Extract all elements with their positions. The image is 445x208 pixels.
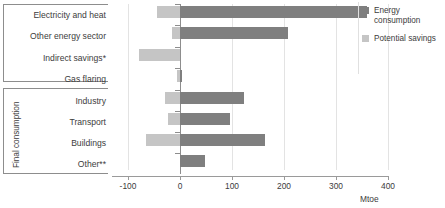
x-axis-unit-label: Mtoe [360, 194, 379, 204]
category-label-transport: Transport [2, 117, 106, 127]
category-label-industry: Industry [2, 96, 106, 106]
energy-savings-bar-chart: Final consumption Electricity and heat O… [0, 0, 445, 208]
x-axis-tick-label: -100 [120, 181, 137, 191]
x-axis-tick [284, 176, 285, 180]
row-tick [175, 68, 180, 69]
gridline [128, 4, 129, 170]
row-tick [175, 4, 180, 5]
plot-area [112, 0, 388, 176]
x-axis-tick [180, 176, 181, 180]
row-tick [175, 47, 180, 48]
x-axis-tick [232, 176, 233, 180]
x-axis-tick [336, 176, 337, 180]
bar-energy-consumption [180, 155, 205, 167]
row-tick [175, 132, 180, 133]
legend-label: Energy consumption [374, 6, 420, 25]
bar-potential-savings [139, 49, 180, 61]
x-axis-tick-label: 300 [329, 181, 343, 191]
bar-energy-consumption [180, 27, 288, 39]
legend-swatch-icon [362, 35, 369, 42]
bar-potential-savings [165, 92, 180, 104]
legend-swatch-icon [362, 7, 369, 14]
category-label-indirect-savings: Indirect savings* [2, 53, 106, 63]
gridline [336, 4, 337, 170]
bar-potential-savings [146, 134, 179, 146]
x-axis-tick [388, 176, 389, 180]
bar-energy-consumption [180, 92, 244, 104]
category-label-electricity-and-heat: Electricity and heat [2, 10, 106, 20]
chart-legend: Energy consumption Potential savings [362, 6, 442, 53]
x-axis-tick-label: 0 [178, 181, 183, 191]
bar-potential-savings [157, 6, 180, 18]
category-label-column: Final consumption Electricity and heat O… [0, 0, 112, 176]
bar-energy-consumption [180, 6, 367, 18]
legend-label: Potential savings [374, 34, 436, 43]
category-label-buildings: Buildings [2, 138, 106, 148]
row-tick [175, 153, 180, 154]
category-label-other: Other** [2, 159, 106, 169]
legend-item-potential-savings: Potential savings [362, 34, 442, 44]
bracket-cap-top [4, 4, 108, 5]
row-tick [175, 90, 180, 91]
x-axis-tick-label: 400 [381, 181, 395, 191]
row-tick [175, 25, 180, 26]
bar-energy-consumption [180, 113, 230, 125]
x-axis-tick [128, 176, 129, 180]
legend-divider [358, 2, 359, 74]
bracket-cap-bottom [4, 173, 108, 174]
category-label-other-energy-sector: Other energy sector [2, 31, 106, 41]
bar-energy-consumption [180, 70, 182, 82]
x-axis-line [112, 176, 388, 177]
row-tick [175, 111, 180, 112]
category-label-gas-flaring: Gas flaring [2, 74, 106, 84]
legend-item-energy-consumption: Energy consumption [362, 6, 442, 25]
bar-potential-savings [172, 27, 180, 39]
bracket-cap-top [4, 88, 108, 89]
bar-energy-consumption [180, 134, 265, 146]
x-axis-tick-label: 200 [277, 181, 291, 191]
x-axis-tick-label: 100 [225, 181, 239, 191]
bar-potential-savings [168, 113, 179, 125]
